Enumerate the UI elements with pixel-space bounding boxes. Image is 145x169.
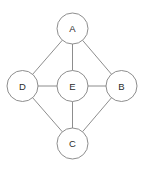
graph-diagram: ABCDE [0, 0, 145, 169]
graph-edge-a-b [83, 40, 112, 74]
graph-edge-c-b [83, 98, 112, 132]
graph-node-c[interactable]: C [57, 128, 88, 159]
node-label-d: D [19, 81, 26, 92]
graph-node-b[interactable]: B [106, 71, 137, 102]
node-label-e: E [69, 81, 75, 92]
graph-node-a[interactable]: A [57, 13, 88, 44]
node-label-b: B [118, 81, 124, 92]
graph-node-d[interactable]: D [7, 71, 38, 102]
node-label-c: C [69, 138, 76, 149]
graph-edge-d-c [33, 98, 63, 132]
node-label-a: A [69, 23, 76, 34]
graph-edge-a-d [33, 40, 63, 74]
node-layer: ABCDE [7, 13, 137, 159]
graph-svg-canvas: ABCDE [0, 0, 145, 169]
graph-node-e[interactable]: E [57, 71, 88, 102]
